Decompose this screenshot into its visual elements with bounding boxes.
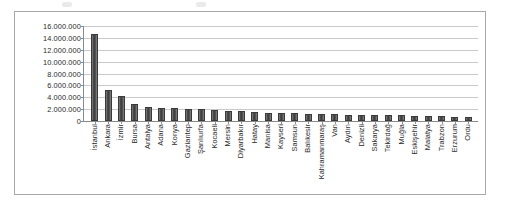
x-label-slot: Kahramanmaraş (314, 124, 327, 204)
bar-slot (155, 26, 168, 121)
bar-slot (235, 26, 248, 121)
x-axis-tick-label: Denizli (356, 124, 365, 147)
x-label-slot: Samsun (287, 124, 300, 204)
x-label-slot: Sakarya (367, 124, 380, 204)
bar-slot (88, 26, 101, 121)
bar-slot (328, 26, 341, 121)
bar[interactable] (291, 113, 298, 121)
bar[interactable] (131, 104, 138, 121)
x-label-slot: Eskişehir (407, 124, 420, 204)
bar[interactable] (305, 114, 312, 121)
x-axis-tick-label: Manisa (263, 124, 272, 148)
bar[interactable] (185, 109, 192, 121)
bar-slot (195, 26, 208, 121)
x-axis-tick-label: Konya (169, 124, 178, 145)
bar-slot (141, 26, 154, 121)
x-axis-tick-label: Ankara (103, 124, 112, 148)
bar-slot (221, 26, 234, 121)
x-label-slot: Diyarbakır (234, 124, 247, 204)
bar[interactable] (145, 107, 152, 121)
x-axis-tick-label: Muğla (396, 124, 405, 144)
bar-slot (435, 26, 448, 121)
bar-slot (181, 26, 194, 121)
bar[interactable] (198, 109, 205, 121)
x-axis-tick-label: Diyarbakır (236, 124, 245, 158)
x-label-slot: Gaziantep (180, 124, 193, 204)
bar-slot (261, 26, 274, 121)
bar[interactable] (211, 110, 218, 121)
scan-artifact (62, 2, 72, 7)
x-axis-tick-label: İstanbul (89, 124, 98, 150)
y-axis-tick-label: 6.000.000 (47, 81, 81, 90)
x-axis-tick-label: Balıkesir (303, 124, 312, 153)
x-label-slot: İstanbul (87, 124, 100, 204)
x-axis-tick-label: Erzurum (449, 124, 458, 152)
bar[interactable] (278, 113, 285, 121)
bar[interactable] (171, 108, 178, 121)
bar[interactable] (318, 114, 325, 121)
x-label-slot: Adana (154, 124, 167, 204)
bar-slot (248, 26, 261, 121)
x-axis-tick-label: Eskişehir (409, 124, 418, 154)
x-axis-tick-label: Trabzon (436, 124, 445, 151)
x-label-slot: Van (327, 124, 340, 204)
y-axis-tick-label: 14.000.000 (43, 33, 81, 42)
plot-area (83, 26, 478, 122)
x-label-slot: Trabzon (434, 124, 447, 204)
y-axis-tick-label: 10.000.000 (43, 57, 81, 66)
x-label-slot: Kocaeli (207, 124, 220, 204)
x-axis-tick-label: Ordu (463, 124, 472, 141)
bar[interactable] (225, 111, 232, 122)
bar-slot (382, 26, 395, 121)
scan-artifact (196, 2, 206, 7)
x-axis-tick-label: Kahramanmaraş (316, 124, 325, 179)
x-axis-tick-label: Kocaeli (209, 124, 218, 149)
x-label-slot: Ordu (461, 124, 474, 204)
x-axis-tick-label: Malatya (423, 124, 432, 150)
bar-slot (448, 26, 461, 121)
x-label-slot: Aydın (341, 124, 354, 204)
x-label-slot: Şanlıurfa (194, 124, 207, 204)
bar-slot (302, 26, 315, 121)
bar-slot (368, 26, 381, 121)
bar[interactable] (238, 111, 245, 121)
chart-plot-wrapper: 16.000.00014.000.00012.000.00010.000.000… (15, 12, 485, 194)
bar[interactable] (265, 113, 272, 121)
x-label-slot: Muğla (394, 124, 407, 204)
bar-slot (408, 26, 421, 121)
x-axis-tick-label: Şanlıurfa (196, 124, 205, 154)
bar-slot (422, 26, 435, 121)
x-label-slot: Bursa (127, 124, 140, 204)
bar-slot (168, 26, 181, 121)
bar-slot (355, 26, 368, 121)
bar-slot (395, 26, 408, 121)
x-label-slot: Hatay (247, 124, 260, 204)
bar[interactable] (105, 90, 112, 121)
y-axis-tick-label: 2.000.000 (47, 105, 81, 114)
bar[interactable] (251, 112, 258, 121)
x-axis: İstanbulAnkaraİzmirBursaAntalyaAdanaKony… (83, 124, 477, 204)
x-axis-tick-label: Gaziantep (183, 124, 192, 158)
x-label-slot: Tekirdağ (381, 124, 394, 204)
bar[interactable] (118, 96, 125, 121)
y-axis-tick-label: 12.000.000 (43, 45, 81, 54)
y-axis-tick-mark (81, 121, 84, 122)
x-axis-tick-label: Aydın (343, 124, 352, 143)
x-axis-tick-label: Samsun (289, 124, 298, 151)
chart-frame: 16.000.00014.000.00012.000.00010.000.000… (14, 11, 486, 195)
x-axis-tick-label: Antalya (143, 124, 152, 149)
x-label-slot: Manisa (260, 124, 273, 204)
x-label-slot: Konya (167, 124, 180, 204)
x-label-slot: Ankara (100, 124, 113, 204)
x-label-slot: Denizli (354, 124, 367, 204)
bar-slot (208, 26, 221, 121)
bar[interactable] (158, 108, 165, 121)
bar-slot (342, 26, 355, 121)
bar-slot (101, 26, 114, 121)
bar-slot (128, 26, 141, 121)
bar-slot (315, 26, 328, 121)
x-label-slot: Erzurum (447, 124, 460, 204)
bar[interactable] (91, 34, 98, 121)
x-label-slot: Mersin (220, 124, 233, 204)
x-axis-tick-label: Mersin (223, 124, 232, 146)
